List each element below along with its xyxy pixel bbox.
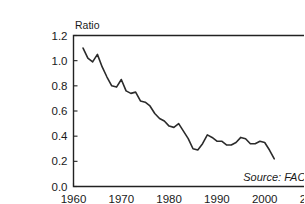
x-tick-label: 1970: [109, 193, 135, 204]
x-tick-label: 1960: [61, 193, 87, 204]
plot-frame: [74, 36, 305, 187]
y-axis-tick-labels: 0.00.20.40.60.81.01.2: [52, 30, 69, 193]
source-note: Source: FAO: [243, 171, 304, 183]
x-tick-label: 2000: [252, 193, 278, 204]
y-tick-label: 0.4: [52, 130, 69, 142]
x-tick-label: 1980: [156, 193, 182, 204]
ratio-line-chart: 0.00.20.40.60.81.01.2 196019701980199020…: [40, 16, 304, 203]
y-tick-label: 0.2: [52, 155, 68, 167]
axis-frame: [74, 36, 305, 187]
x-tick-label: 1990: [204, 193, 230, 204]
data-series-line: [83, 48, 274, 159]
y-tick-label: 1.2: [52, 30, 68, 42]
y-tick-label: 1.0: [52, 55, 68, 67]
y-tick-label: 0.8: [52, 80, 68, 92]
y-tick-label: 0.0: [52, 181, 68, 193]
y-axis-title: Ratio: [75, 19, 100, 31]
x-axis-tick-labels: 196019701980199020002010: [61, 193, 304, 204]
chart-canvas: 0.00.20.40.60.81.01.2 196019701980199020…: [40, 16, 304, 203]
y-tick-label: 0.6: [52, 105, 68, 117]
x-tick-label: 2010: [300, 193, 304, 204]
